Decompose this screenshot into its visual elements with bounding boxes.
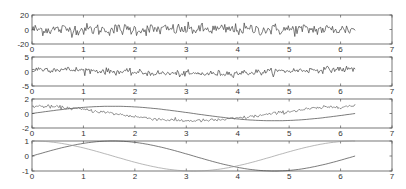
y-tick-label: -2 [22, 124, 30, 133]
series-noisy_signal [32, 66, 355, 78]
x-tick-label: 3 [184, 45, 189, 54]
subplot-3-sin-cos-noisy: 0123456720-2 [22, 95, 395, 138]
x-tick-label: 6 [338, 45, 343, 54]
x-tick-label: 3 [184, 172, 189, 181]
series-noise_large [32, 22, 355, 38]
x-tick-label: 6 [338, 87, 343, 96]
x-tick-label: 3 [184, 87, 189, 96]
axes-box [32, 57, 392, 86]
y-tick-label: -1 [22, 167, 30, 176]
x-tick-label: 7 [390, 87, 395, 96]
x-tick-label: 2 [133, 45, 138, 54]
y-tick-label: 2 [25, 95, 30, 104]
x-tick-label: 1 [81, 87, 86, 96]
x-tick-label: 7 [390, 172, 395, 181]
axes-box [32, 99, 392, 128]
x-tick-label: 7 [390, 129, 395, 138]
x-tick-label: 1 [81, 129, 86, 138]
x-tick-label: 5 [287, 172, 292, 181]
x-tick-label: 4 [235, 45, 240, 54]
y-tick-label: -20 [17, 40, 29, 49]
x-tick-label: 6 [338, 129, 343, 138]
x-tick-label: 1 [81, 172, 86, 181]
y-tick-label: 20 [20, 11, 29, 20]
y-tick-label: 0 [25, 110, 30, 119]
x-tick-label: 2 [133, 172, 138, 181]
x-tick-label: 4 [235, 87, 240, 96]
y-tick-label: -5 [22, 82, 30, 91]
figure: 01234567200-20 0123456750-5 0123456720-2… [0, 0, 406, 189]
x-tick-label: 0 [30, 172, 35, 181]
x-tick-label: 6 [338, 172, 343, 181]
y-tick-label: 0 [25, 26, 30, 35]
subplot-1-noise: 01234567200-20 [17, 11, 394, 54]
x-tick-label: 7 [390, 45, 395, 54]
x-tick-label: 2 [133, 87, 138, 96]
x-tick-label: 0 [30, 45, 35, 54]
x-tick-label: 1 [81, 45, 86, 54]
x-tick-label: 4 [235, 172, 240, 181]
y-tick-label: 5 [25, 53, 30, 62]
x-tick-label: 5 [287, 129, 292, 138]
y-tick-label: 1 [25, 137, 30, 146]
axes-box [32, 141, 392, 171]
y-tick-label: 0 [25, 152, 30, 161]
y-tick-label: 0 [25, 68, 30, 77]
x-tick-label: 0 [30, 87, 35, 96]
x-tick-label: 3 [184, 129, 189, 138]
x-tick-label: 4 [235, 129, 240, 138]
x-tick-label: 5 [287, 45, 292, 54]
x-tick-label: 5 [287, 87, 292, 96]
x-tick-label: 0 [30, 129, 35, 138]
subplot-2-noisy-trend: 0123456750-5 [22, 53, 395, 96]
x-tick-label: 2 [133, 129, 138, 138]
series-sin [32, 141, 355, 171]
subplot-4-sin-cos: 0123456710-1 [22, 137, 395, 181]
